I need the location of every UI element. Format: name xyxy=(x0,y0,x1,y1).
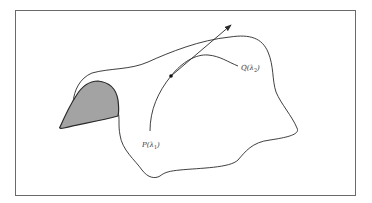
label-p-lambda1: P(λ1) xyxy=(142,141,160,150)
curve-point xyxy=(169,74,173,78)
diagram-canvas xyxy=(0,0,372,203)
label-q-lambda2: Q(λ2) xyxy=(241,64,260,73)
shaded-region xyxy=(60,81,119,128)
tangent-vector-arrow xyxy=(171,25,231,76)
curve-p-to-q xyxy=(150,55,238,131)
